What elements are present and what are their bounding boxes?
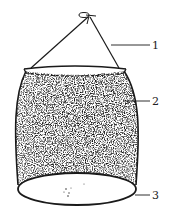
bottom-ring [18, 173, 136, 205]
label-1: 1 [152, 39, 159, 52]
diagram-canvas: 1 2 3 [0, 0, 173, 219]
hanging-cord [31, 13, 119, 69]
label-3-callout: 3 [135, 189, 159, 202]
label-2: 2 [152, 95, 159, 108]
label-1-callout: 1 [111, 39, 159, 52]
label-3: 3 [152, 189, 159, 202]
